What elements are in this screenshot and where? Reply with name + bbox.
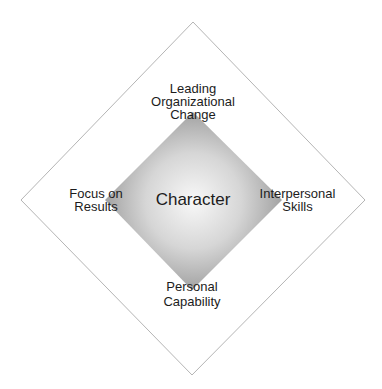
label-bottom-line-2: Capability [152,294,232,309]
label-right: Interpersonal Skills [255,187,340,213]
label-bottom-line-1: Personal [152,279,232,294]
center-label-text: Character [143,191,243,208]
label-left: Focus on Results [58,187,134,213]
label-top-line-3: Change [143,108,243,121]
label-bottom: Personal Capability [152,279,232,309]
label-right-line-2: Skills [255,200,340,213]
center-label: Character [143,191,243,208]
label-left-line-2: Results [58,200,134,213]
label-top: Leading Organizational Change [143,82,243,121]
